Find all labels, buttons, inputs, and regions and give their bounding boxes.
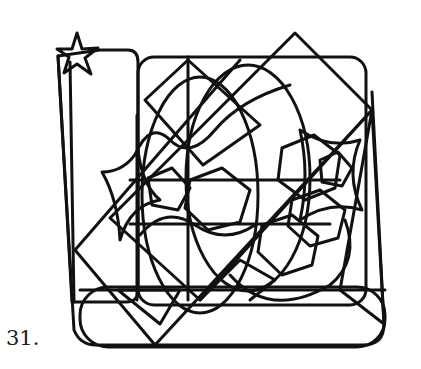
line-art-canvas bbox=[0, 0, 421, 369]
hexagon-center-shape bbox=[185, 168, 250, 230]
bottom-center-zigzag-shape bbox=[200, 260, 275, 300]
big-ellipse-left-shape bbox=[142, 77, 258, 313]
overlapping-figures-puzzle bbox=[0, 0, 421, 369]
small-inner-pentagon-shape bbox=[148, 168, 190, 210]
item-number-label: 31. bbox=[6, 326, 39, 350]
wavy-curve-top-shape bbox=[135, 85, 290, 155]
